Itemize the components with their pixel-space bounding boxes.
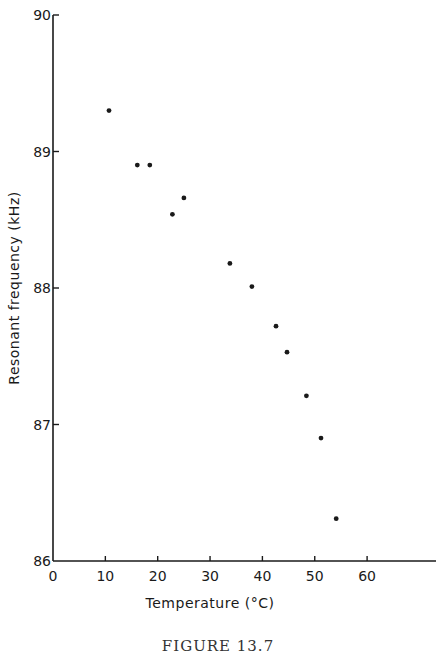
x-tick-label: 10	[96, 568, 114, 584]
data-point	[182, 196, 187, 201]
data-point	[274, 324, 279, 329]
x-tick-label: 40	[253, 568, 271, 584]
ticks: 01020304050608687888990	[33, 7, 376, 584]
y-tick-label: 89	[33, 144, 51, 160]
data-point	[304, 393, 309, 398]
x-tick-label: 50	[306, 568, 324, 584]
y-tick-label: 90	[33, 7, 51, 23]
x-tick-label: 20	[149, 568, 167, 584]
y-axis-title: Resonant frequency (kHz)	[6, 191, 22, 384]
axes	[53, 15, 436, 561]
data-point	[147, 163, 152, 168]
data-point	[107, 108, 112, 113]
data-point	[228, 261, 233, 266]
x-tick-label: 60	[358, 568, 376, 584]
data-point	[135, 163, 140, 168]
data-point	[250, 284, 255, 289]
data-point	[170, 212, 175, 217]
data-points	[107, 108, 339, 521]
data-point	[285, 350, 290, 355]
data-point	[334, 516, 339, 521]
figure-caption: FIGURE 13.7	[0, 637, 436, 655]
y-tick-label: 87	[33, 417, 51, 433]
x-axis-title: Temperature (°C)	[145, 595, 275, 611]
x-tick-label: 0	[49, 568, 58, 584]
y-tick-label: 86	[33, 553, 51, 569]
x-tick-label: 30	[201, 568, 219, 584]
data-point	[319, 436, 324, 441]
y-tick-label: 88	[33, 280, 51, 296]
